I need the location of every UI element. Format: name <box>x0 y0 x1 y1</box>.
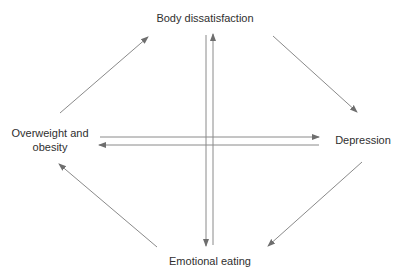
arrow-emotional-to-overweight <box>59 164 157 247</box>
cycle-diagram: Body dissatisfaction Depression Emotiona… <box>0 0 405 277</box>
node-body-dissatisfaction: Body dissatisfaction <box>120 11 290 25</box>
node-overweight-and-obesity: Overweight and obesity <box>5 126 95 154</box>
arrow-depression-to-emotional <box>268 162 362 246</box>
node-emotional-eating: Emotional eating <box>130 254 290 268</box>
arrow-body-to-depression <box>273 36 357 112</box>
arrow-overweight-to-body <box>60 37 148 113</box>
node-depression: Depression <box>327 133 399 147</box>
